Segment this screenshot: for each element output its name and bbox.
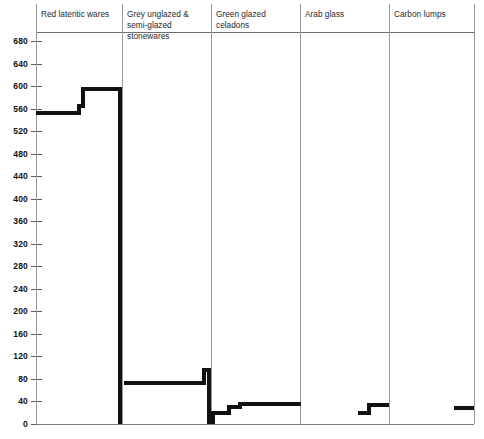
y-tick-label: 200 (0, 307, 28, 315)
step-segment (240, 402, 301, 406)
step-segment (83, 87, 122, 91)
y-tick-label: 400 (0, 195, 28, 203)
panel-divider (36, 4, 37, 424)
y-tick-label: 280 (0, 262, 28, 270)
group-title: Red lateritic wares (41, 9, 119, 20)
plot-baseline (36, 424, 474, 425)
y-tick-label: 440 (0, 172, 28, 180)
panel-divider (122, 4, 123, 424)
y-tick-label: 240 (0, 285, 28, 293)
y-tick-label: 40 (0, 397, 28, 405)
panel-divider (474, 4, 475, 424)
panel-divider (211, 4, 212, 424)
step-segment (36, 111, 79, 115)
step-riser (367, 403, 371, 415)
y-tick-label: 320 (0, 240, 28, 248)
y-tick-label: 520 (0, 127, 28, 135)
step-segment (369, 403, 389, 407)
step-riser (211, 411, 215, 424)
group-title: Arab glass (305, 9, 386, 20)
y-tick-label: 560 (0, 105, 28, 113)
group-title: Green glazed celadons (216, 9, 297, 31)
step-segment (124, 381, 204, 385)
y-tick-label: 0 (0, 420, 28, 428)
y-tick-label: 480 (0, 150, 28, 158)
y-tick-label: 600 (0, 82, 28, 90)
group-title: Grey unglazed & semi-glazed stonewares (127, 9, 208, 42)
y-tick-label: 680 (0, 37, 28, 45)
panel-divider (389, 4, 390, 424)
plot-top-border (36, 32, 474, 33)
y-tick-label: 120 (0, 352, 28, 360)
y-tick-label: 160 (0, 330, 28, 338)
y-tick-label: 640 (0, 60, 28, 68)
y-tick-label: 80 (0, 375, 28, 383)
chart-container: 6806406005605204804404003603202802402001… (0, 0, 484, 439)
step-riser (227, 405, 231, 415)
step-riser (81, 87, 85, 108)
step-riser (202, 368, 206, 385)
panel-divider (300, 4, 301, 424)
step-segment (454, 406, 474, 410)
y-tick-label: 360 (0, 217, 28, 225)
step-riser-end (118, 87, 122, 424)
group-title: Carbon lumps (394, 9, 471, 20)
step-riser (238, 402, 242, 409)
